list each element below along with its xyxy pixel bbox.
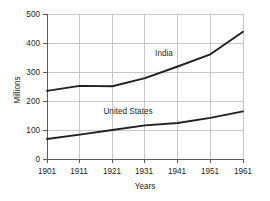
y-tick-label-400: 400 (26, 39, 40, 48)
population-line-chart: 500 400 300 200 100 0 1901 1911 1921 193… (0, 0, 270, 201)
series-label-india: India (155, 49, 173, 58)
y-tick-labels: 500 400 300 200 100 0 (26, 10, 40, 164)
x-tick-label-1901: 1901 (38, 167, 57, 176)
y-tick-label-100: 100 (26, 126, 40, 135)
y-tick-label-300: 300 (26, 68, 40, 77)
x-tick-label-1931: 1931 (135, 167, 154, 176)
series-label-united-states: United States (103, 107, 152, 116)
x-axis-title: Years (135, 182, 156, 191)
y-axis-title: Millions (13, 76, 22, 103)
y-tick-label-0: 0 (35, 155, 40, 164)
x-tick-marks (47, 159, 243, 163)
x-tick-label-1921: 1921 (103, 167, 122, 176)
x-tick-label-1911: 1911 (70, 167, 88, 176)
y-tick-label-200: 200 (26, 97, 40, 106)
x-tick-label-1941: 1941 (168, 167, 187, 176)
x-tick-label-1951: 1951 (201, 167, 220, 176)
x-tick-label-1961: 1961 (234, 167, 253, 176)
chart-figure: 500 400 300 200 100 0 1901 1911 1921 193… (0, 0, 270, 201)
y-tick-marks (43, 14, 47, 159)
y-tick-label-500: 500 (26, 10, 40, 19)
x-tick-labels: 1901 1911 1921 1931 1941 1951 1961 (38, 167, 253, 176)
